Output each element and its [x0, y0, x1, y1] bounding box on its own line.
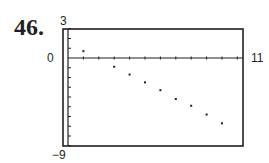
data-point — [129, 74, 131, 76]
data-point — [159, 89, 161, 91]
data-point — [82, 50, 84, 52]
scatter-plot — [0, 0, 269, 163]
data-point — [175, 98, 177, 100]
data-point — [190, 105, 192, 107]
plot-frame — [63, 29, 243, 146]
data-point — [221, 122, 223, 124]
data-point — [206, 114, 208, 116]
data-point — [144, 81, 146, 83]
data-point — [113, 66, 115, 68]
